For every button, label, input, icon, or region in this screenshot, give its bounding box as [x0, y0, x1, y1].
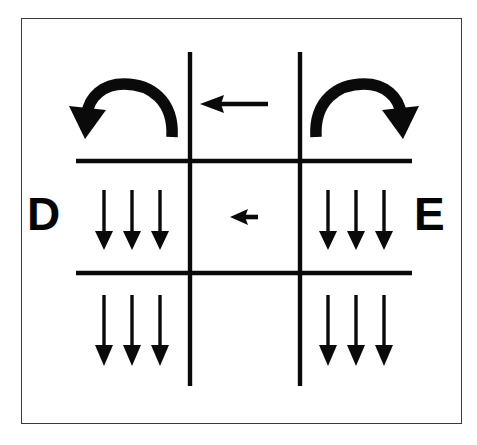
down-arrow	[95, 295, 113, 366]
top-center-left-arrow	[200, 95, 268, 113]
down-arrow	[319, 190, 337, 250]
curved-arrow-left	[69, 84, 172, 139]
down-arrows-middle-left	[95, 190, 169, 250]
down-arrow	[151, 190, 169, 250]
down-arrow	[319, 295, 337, 366]
down-arrow	[151, 295, 169, 366]
down-arrow	[95, 190, 113, 250]
diagram-canvas	[0, 0, 477, 445]
down-arrow	[123, 295, 141, 366]
down-arrow	[347, 190, 365, 250]
label-e: E	[414, 191, 445, 237]
down-arrows-bottom-left	[95, 295, 169, 366]
down-arrow	[123, 190, 141, 250]
down-arrow	[375, 190, 393, 250]
down-arrow	[375, 295, 393, 366]
middle-center-left-arrow	[230, 209, 258, 225]
down-arrows-middle-right	[319, 190, 393, 250]
curved-arrow-right	[316, 84, 419, 139]
label-d: D	[27, 191, 60, 237]
down-arrows-bottom-right	[319, 295, 393, 366]
figure-root: D E	[0, 0, 477, 445]
down-arrow	[347, 295, 365, 366]
